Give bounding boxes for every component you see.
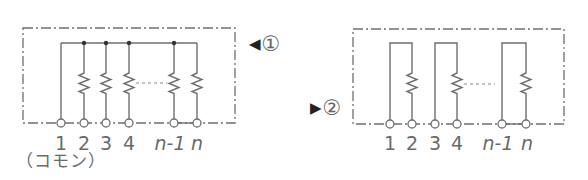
right-package-outline bbox=[353, 29, 564, 124]
left-terminal-4 bbox=[125, 119, 133, 127]
right-pin-label-n-1: n-1 bbox=[483, 134, 514, 153]
right-pin-label-1: 1 bbox=[384, 134, 396, 153]
right-terminal-4 bbox=[453, 120, 461, 128]
right-resistor-n-1-n bbox=[502, 43, 531, 120]
left-terminal-n bbox=[193, 119, 201, 127]
left-resistor-4 bbox=[124, 43, 134, 119]
left-pointing-triangle-icon: ◀ bbox=[249, 37, 261, 52]
right-network bbox=[353, 29, 564, 128]
left-diagram-marker: ◀ ① bbox=[249, 34, 280, 55]
right-pin-label-n: n bbox=[521, 134, 533, 153]
left-resistor-2 bbox=[79, 43, 89, 119]
right-resistor-1-2 bbox=[390, 43, 417, 120]
resistor-network-diagrams: 1 2 3 4 n-1 n （コモン） ◀ ① 1 2 3 4 n-1 n ▶ … bbox=[0, 0, 588, 180]
right-terminal-n bbox=[522, 120, 530, 128]
left-terminal-3 bbox=[102, 119, 110, 127]
circled-number-2: ② bbox=[323, 98, 342, 119]
right-pin-label-4: 4 bbox=[451, 134, 463, 153]
left-terminal-2 bbox=[80, 119, 88, 127]
left-pin-label-n: n bbox=[191, 134, 203, 153]
right-pointing-triangle-icon: ▶ bbox=[310, 101, 322, 116]
left-resistor-3 bbox=[101, 43, 111, 119]
right-terminal-2 bbox=[408, 120, 416, 128]
left-network bbox=[23, 28, 235, 127]
right-terminal-3 bbox=[431, 120, 439, 128]
left-pin-label-4: 4 bbox=[123, 134, 135, 153]
left-resistor-n-1 bbox=[169, 43, 179, 119]
right-terminal-1 bbox=[386, 120, 394, 128]
right-diagram-marker: ▶ ② bbox=[310, 98, 341, 119]
right-pin-label-3: 3 bbox=[429, 134, 441, 153]
right-terminal-n-1 bbox=[498, 120, 506, 128]
circled-number-1: ① bbox=[262, 34, 281, 55]
right-pin-label-2: 2 bbox=[406, 134, 418, 153]
common-pin-note: （コモン） bbox=[16, 153, 106, 170]
left-terminal-1 bbox=[57, 119, 65, 127]
left-resistor-n bbox=[192, 43, 202, 119]
left-pin-label-n-1: n-1 bbox=[155, 134, 186, 153]
left-terminal-n-1 bbox=[170, 119, 178, 127]
right-resistor-3-4 bbox=[435, 43, 462, 120]
